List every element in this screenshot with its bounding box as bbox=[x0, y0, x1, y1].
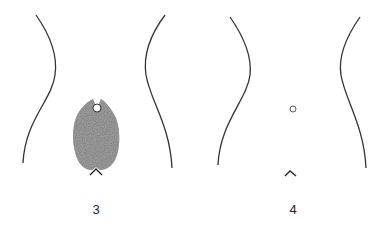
torso-right-outline bbox=[340, 17, 366, 168]
torso-left-outline bbox=[218, 17, 250, 165]
diagram-canvas bbox=[0, 0, 388, 232]
figure-label-4: 4 bbox=[289, 202, 296, 217]
torso-left-outline bbox=[23, 15, 56, 163]
figure-3 bbox=[23, 15, 172, 175]
torso-right-outline bbox=[145, 15, 172, 168]
navel-circle bbox=[93, 104, 101, 112]
figure-4 bbox=[218, 17, 366, 176]
caret-marker bbox=[285, 171, 296, 176]
navel-circle bbox=[290, 106, 296, 112]
figure-label-3: 3 bbox=[92, 202, 99, 217]
